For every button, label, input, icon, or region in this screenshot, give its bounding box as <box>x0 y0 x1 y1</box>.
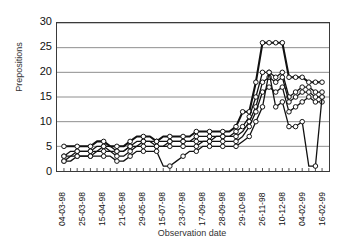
chart-plot-svg <box>57 23 329 171</box>
x-axis-tick-label: 04-02-99 <box>298 192 307 226</box>
plot-area <box>56 22 330 172</box>
x-axis-tick-label: 21-05-98 <box>118 192 127 226</box>
x-axis-tick-label: 15-04-98 <box>98 192 107 226</box>
x-axis-tick-label: 10-12-98 <box>278 192 287 226</box>
y-axis-tick-label: 0 <box>26 166 52 177</box>
y-axis-tick-label: 10 <box>26 116 52 127</box>
y-axis-tick-label: 15 <box>26 91 52 102</box>
x-axis-tick-label: 16-02-99 <box>318 192 327 226</box>
y-axis-tick-labels: 302520151050 <box>26 0 52 246</box>
x-axis-minor-ticks <box>64 168 322 171</box>
y-axis-title: Prepositions <box>14 12 24 122</box>
y-axis-tick-label: 25 <box>26 41 52 52</box>
x-axis-tick-label: 29-10-98 <box>238 192 247 226</box>
data-series <box>62 70 325 158</box>
y-axis-tick-label: 5 <box>26 141 52 152</box>
x-axis-tick-label: 15-07-98 <box>158 192 167 226</box>
x-axis-tick-label: 23-07-98 <box>178 192 187 226</box>
x-axis-tick-label: 28-09-98 <box>218 192 227 226</box>
x-axis-tick-label: 29-05-98 <box>138 192 147 226</box>
x-axis-tick-label: 04-03-98 <box>58 192 67 226</box>
x-axis-title: Observation date <box>0 228 354 238</box>
x-axis-tick-labels: 04-03-9825-03-9815-04-9821-05-9829-05-98… <box>56 174 330 226</box>
x-axis-tick-label: 17-09-98 <box>198 192 207 226</box>
x-axis-tick-label: 25-03-98 <box>78 192 87 226</box>
y-axis-tick-label: 20 <box>26 66 52 77</box>
chart-container: Prepositions 302520151050 04-03-9825-03-… <box>0 0 354 246</box>
y-axis-tick-label: 30 <box>26 16 52 27</box>
x-axis-tick-label: 26-11-98 <box>258 193 267 226</box>
x-axis-title-text: Observation date <box>158 228 227 238</box>
